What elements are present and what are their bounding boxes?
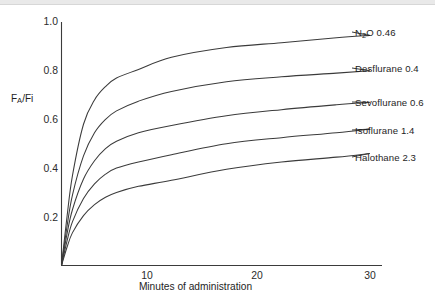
series-label-n2o: N2O 0.46 bbox=[355, 27, 396, 38]
y-tick-label-1.0: 1.0 bbox=[32, 16, 58, 27]
y-axis-title: FA/Fi bbox=[11, 93, 33, 104]
series-label-halothane: Halothane 2.3 bbox=[355, 152, 416, 163]
figure-canvas: 1.0 0.8 0.6 0.4 0.2 10 20 30 FA/Fi Minut… bbox=[0, 0, 435, 308]
curve-sevoflurane bbox=[62, 102, 370, 265]
y-tick-label-0.4: 0.4 bbox=[32, 163, 58, 174]
curve-halothane bbox=[62, 153, 370, 265]
x-axis-title: Minutes of administration bbox=[0, 281, 435, 292]
series-label-isoflurane: Isoflurane 1.4 bbox=[355, 125, 415, 136]
y-tick-label-0.6: 0.6 bbox=[32, 114, 58, 125]
y-axis-title-fi: /Fi bbox=[22, 93, 33, 104]
series-label-sevoflurane: Sevoflurane 0.6 bbox=[355, 97, 424, 108]
y-tick-label-0.2: 0.2 bbox=[32, 212, 58, 223]
series-label-desflurane: Desflurane 0.4 bbox=[355, 63, 419, 74]
series-label-n2o-sub: 2 bbox=[362, 31, 366, 40]
x-tick-label-20: 20 bbox=[244, 270, 270, 281]
curve-n2o bbox=[62, 35, 370, 265]
series-label-n2o-rest: O 0.46 bbox=[366, 27, 395, 38]
x-tick-label-10: 10 bbox=[134, 270, 160, 281]
y-axis-title-sub-a: A bbox=[17, 96, 22, 105]
curve-group bbox=[62, 35, 370, 265]
x-tick-label-30: 30 bbox=[357, 270, 383, 281]
curve-isoflurane bbox=[62, 129, 370, 265]
leader-line-group bbox=[352, 32, 370, 157]
x-axis-title-text: Minutes of administration bbox=[139, 281, 252, 292]
curve-desflurane bbox=[62, 71, 370, 266]
series-label-n2o-n: N bbox=[355, 27, 362, 38]
y-tick-label-0.8: 0.8 bbox=[32, 65, 58, 76]
